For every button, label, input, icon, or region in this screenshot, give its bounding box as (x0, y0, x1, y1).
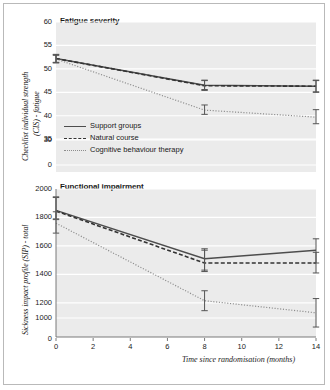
chart-panel-functional-impairment: Functional impairment Sickness impact pr… (4, 179, 326, 386)
chart-panel-fatigue-severity: Fatigue severity Checklist individual st… (4, 4, 326, 179)
plot-lines-bottom (4, 179, 326, 387)
figure-frame: Fatigue severity Checklist individual st… (3, 3, 325, 385)
legend-label-natural-course: Natural course (90, 133, 139, 142)
legend-swatch-dashed-icon (64, 138, 86, 139)
legend-swatch-solid-icon (64, 126, 86, 127)
legend-label-support-groups: Support groups (90, 121, 141, 130)
legend-label-cognitive-behaviour-therapy: Cognitive behaviour therapy (90, 145, 183, 154)
legend-swatch-dotted-icon (64, 150, 86, 151)
